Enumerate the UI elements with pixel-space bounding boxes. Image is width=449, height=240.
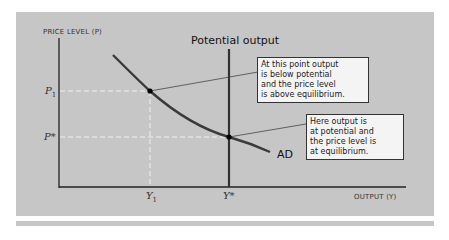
point-ystar-pstar: [226, 134, 231, 139]
ad-label: AD: [277, 148, 293, 161]
upper-annotation-box: At this point output is below potential …: [257, 57, 369, 103]
p1-tick-text: P: [45, 85, 52, 96]
ystar-tick: Y*: [223, 190, 235, 201]
upper-annotation-line: and the price level: [261, 80, 365, 90]
lower-annotation-line: at equilibrium.: [310, 147, 400, 157]
upper-annotation-line: is above equilibrium.: [261, 90, 365, 100]
y-axis-label: PRICE LEVEL (P): [43, 28, 102, 36]
lower-annotation-line: at potential and: [310, 127, 400, 137]
p1-tick: P1: [45, 85, 56, 99]
y1-tick: Y1: [146, 190, 157, 204]
potential-output-label: Potential output: [191, 34, 279, 47]
upper-annotation-line: At this point output: [261, 60, 365, 70]
y1-tick-sub: 1: [153, 196, 157, 204]
point-y1-p1: [147, 88, 152, 93]
lower-annotation-line: Here output is: [310, 117, 400, 127]
upper-annotation-line: is below potential: [261, 70, 365, 80]
lower-annotation-box: Here output is at potential and the pric…: [306, 114, 404, 160]
pstar-tick: P*: [44, 131, 56, 142]
upper-leader-line: [150, 72, 258, 91]
lower-leader-line: [229, 124, 306, 137]
y1-tick-text: Y: [146, 190, 153, 201]
x-axis-label: OUTPUT (Y): [354, 193, 397, 201]
lower-annotation-line: the price level is: [310, 137, 400, 147]
p1-tick-sub: 1: [52, 91, 56, 99]
